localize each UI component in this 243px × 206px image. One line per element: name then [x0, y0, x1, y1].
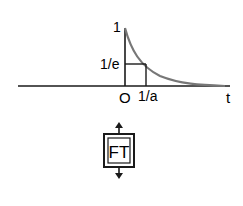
label-y-mark: 1/e — [100, 56, 120, 72]
label-x-mark: 1/a — [138, 88, 158, 104]
label-y-max: 1 — [113, 19, 121, 35]
fourier-transform-block: FT — [104, 122, 134, 179]
arrow-up-head-icon — [115, 122, 123, 128]
arrow-down-head-icon — [115, 173, 123, 179]
ft-label: FT — [109, 143, 130, 162]
exponential-decay-diagram: 1 1/e O 1/a t FT — [0, 0, 243, 206]
decay-curve — [125, 28, 225, 86]
label-origin: O — [119, 89, 131, 106]
label-x-axis: t — [226, 89, 231, 106]
